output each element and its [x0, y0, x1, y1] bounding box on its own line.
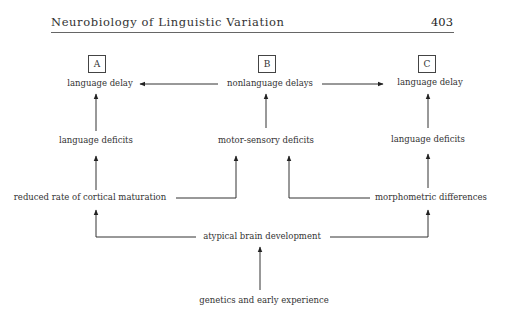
panel-label-b: B — [258, 55, 276, 73]
node-c-language-delay: language delay — [397, 77, 462, 87]
node-reduced-rate-cortical-maturation: reduced rate of cortical maturation — [14, 192, 166, 202]
node-b-nonlanguage-delays: nonlanguage delays — [227, 78, 313, 88]
node-a-language-deficits: language deficits — [59, 135, 133, 145]
node-a-language-delay: language delay — [67, 78, 132, 88]
panel-label-a: A — [88, 55, 106, 73]
panel-label-c: C — [418, 55, 436, 73]
node-motor-sensory-deficits: motor-sensory deficits — [218, 135, 314, 145]
node-c-language-deficits: language deficits — [391, 134, 465, 144]
node-genetics-early-experience: genetics and early experience — [199, 295, 328, 305]
node-atypical-brain-development: atypical brain development — [203, 231, 321, 241]
node-morphometric-differences: morphometric differences — [375, 192, 487, 202]
connector-arrows — [0, 0, 511, 312]
